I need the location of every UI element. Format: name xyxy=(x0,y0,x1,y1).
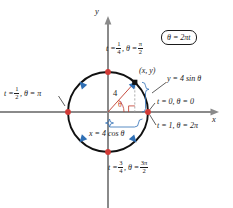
marker-label-t-quarter-prefix: t = xyxy=(106,44,116,53)
y-axis-label: y xyxy=(95,6,99,16)
fraction-numerator: π xyxy=(138,41,143,48)
direction-arrow-upper-left xyxy=(80,82,88,90)
marker-label-t-one: t = 1, θ = 2π xyxy=(157,122,198,130)
fraction-one-quarter: 14 xyxy=(116,41,121,55)
radius-length-label: 4 xyxy=(113,88,117,98)
y-component-leader xyxy=(152,83,166,94)
x-component-brace xyxy=(106,119,135,127)
fraction-denominator: 2 xyxy=(14,93,19,101)
t1-leader xyxy=(150,115,157,126)
x-axis-label: x xyxy=(212,114,216,124)
marker-dot-left xyxy=(65,109,71,115)
theta-angle-label: θ xyxy=(118,100,122,109)
marker-label-t-three-quarter-theta: , θ = xyxy=(124,163,139,172)
fraction-denominator: 4 xyxy=(118,167,123,175)
fraction-denominator: 2 xyxy=(138,48,143,56)
fraction-denominator: 2 xyxy=(140,167,149,175)
theta-equation-text: θ = 2πt xyxy=(167,33,191,42)
marker-label-t-three-quarter-prefix: t = xyxy=(108,163,118,172)
marker-label-t-quarter: t =14, θ =π2 xyxy=(106,41,144,55)
point-xy-marker xyxy=(132,80,137,85)
marker-label-t-zero: t = 0, θ = 0 xyxy=(157,98,194,106)
marker-label-t-three-quarter: t =34, θ =3π2 xyxy=(108,160,149,174)
fraction-numerator: 1 xyxy=(116,41,121,48)
parametric-circle-figure: y x θ = 2πt t =14, θ =π2 t =12, θ = π t … xyxy=(0,0,233,208)
marker-dot-right xyxy=(145,109,151,115)
x-component-label: x = 4 cos θ xyxy=(89,130,125,138)
marker-label-t-half-prefix: t = xyxy=(4,89,14,98)
theta-equation-box: θ = 2πt xyxy=(161,30,197,45)
y-component-label: y = 4 sin θ xyxy=(167,75,201,83)
direction-arrow-lower-right xyxy=(129,134,137,142)
x-axis xyxy=(0,109,219,116)
point-xy-label: (x, y) xyxy=(139,66,155,75)
direction-arrow-lower-left xyxy=(80,134,88,142)
marker-label-t-half-theta: , θ = π xyxy=(20,89,41,98)
marker-dot-top xyxy=(105,69,111,75)
figure-graphics xyxy=(0,0,233,208)
fraction-numerator: 3π xyxy=(140,160,149,167)
fraction-three-quarters: 34 xyxy=(118,160,123,174)
fraction-denominator: 4 xyxy=(116,48,121,56)
t0-leader xyxy=(150,103,156,110)
t-half-leader xyxy=(59,96,66,106)
fraction-pi-over-two: π2 xyxy=(138,41,143,55)
marker-label-t-quarter-theta: , θ = xyxy=(122,44,137,53)
fraction-three-pi-over-two: 3π2 xyxy=(140,160,149,174)
marker-label-t-half: t =12, θ = π xyxy=(4,86,41,100)
fraction-one-half: 12 xyxy=(14,86,19,100)
marker-dot-bottom xyxy=(105,149,111,155)
fraction-numerator: 3 xyxy=(118,160,123,167)
fraction-numerator: 1 xyxy=(14,86,19,93)
x-component-brace-right xyxy=(135,119,143,127)
